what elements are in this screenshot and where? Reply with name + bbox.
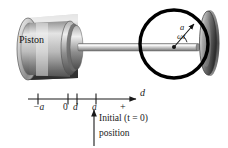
axis-tick-label-d: d — [73, 103, 78, 113]
axis-tick-label-a: a — [92, 103, 97, 113]
axis-tick-label-zero: 0 — [63, 103, 68, 113]
figure-artwork — [0, 0, 228, 148]
piston-label: Piston — [19, 35, 44, 45]
axis-tick-label-neg-a: −a — [33, 103, 44, 113]
caption-line-1: Initial (t = 0) — [99, 114, 148, 124]
piston-crank-figure: Piston −a 0 d a + d a ωt Initial (t = 0)… — [0, 0, 228, 148]
piston-cylinder — [17, 14, 83, 80]
axis-tick-label-plus: + — [120, 102, 126, 112]
rod-highlight — [78, 44, 198, 46]
crank-angle-label: ωt — [177, 32, 185, 41]
caption-line-2: position — [99, 129, 130, 139]
bore-light-band — [36, 23, 48, 76]
axis-label: d — [140, 88, 145, 98]
